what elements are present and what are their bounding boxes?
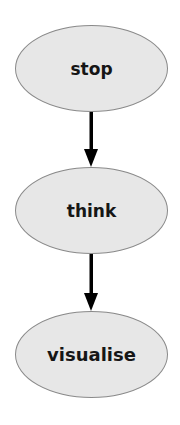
arrow-down-icon [84, 112, 98, 167]
node-visualise: visualise [15, 311, 168, 398]
arrow-down-icon [84, 254, 98, 311]
node-stop-label: stop [70, 59, 112, 79]
node-stop: stop [15, 25, 168, 112]
flowchart-diagram: stop think visualise [0, 0, 180, 425]
node-visualise-label: visualise [47, 344, 136, 365]
node-think: think [15, 167, 168, 254]
node-think-label: think [67, 201, 116, 221]
